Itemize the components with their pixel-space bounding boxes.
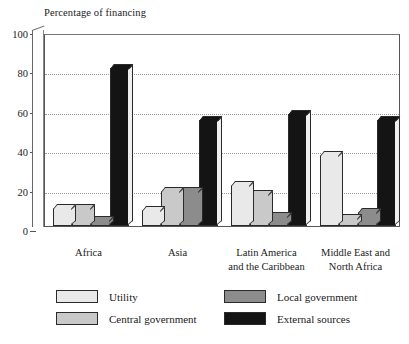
bar-side-face — [217, 116, 222, 225]
bar[interactable] — [110, 68, 129, 226]
bar-side-face — [338, 152, 343, 225]
plot-left-wall — [32, 30, 44, 227]
y-axis-tick-label: 20 — [18, 186, 29, 197]
legend-item[interactable]: Central government — [56, 312, 197, 325]
bar[interactable] — [231, 185, 250, 226]
bar-group — [223, 35, 312, 226]
bar[interactable] — [320, 155, 339, 226]
plot-floor — [32, 227, 400, 245]
gridline — [45, 153, 399, 154]
bar-side-face — [395, 116, 400, 225]
gridline — [45, 74, 399, 75]
legend-item[interactable]: Local government — [224, 290, 357, 303]
y-axis-tick-label: 40 — [18, 147, 29, 158]
y-axis-tick-label: 60 — [18, 107, 29, 118]
legend-label: Utility — [109, 291, 138, 303]
x-axis-label: Middle East and North Africa — [305, 246, 406, 274]
chart-legend: UtilityLocal governmentCentral governmen… — [0, 290, 409, 340]
bar-side-face — [249, 181, 254, 225]
y-axis: 020406080100 — [0, 30, 28, 245]
gridline — [45, 193, 399, 194]
y-axis-tick-label: 0 — [23, 226, 28, 237]
y-axis-tick-label: 80 — [18, 68, 29, 79]
legend-swatch — [224, 312, 266, 325]
legend-label: Local government — [277, 291, 357, 303]
legend-item[interactable]: Utility — [56, 290, 138, 303]
legend-swatch — [224, 290, 266, 303]
x-axis-labels: AfricaAsiaLatin America and the Caribbea… — [32, 246, 400, 282]
bar-chart: Percentage of financing 020406080100 Afr… — [0, 0, 409, 344]
bar-top-face — [231, 181, 254, 186]
chart-axis-title: Percentage of financing — [44, 7, 146, 18]
bar-side-face — [198, 187, 203, 225]
legend-item[interactable]: External sources — [224, 312, 350, 325]
bar-groups — [45, 35, 399, 226]
plot-area — [32, 30, 400, 245]
x-axis-label: Africa — [38, 246, 139, 260]
y-axis-tick-label: 100 — [12, 29, 28, 40]
x-axis-label: Latin America and the Caribbean — [216, 246, 317, 274]
bar-top-face — [377, 116, 400, 121]
legend-label: External sources — [277, 313, 350, 325]
x-axis-label: Asia — [127, 246, 228, 260]
bar[interactable] — [288, 114, 307, 226]
bar-group — [312, 35, 401, 226]
bar[interactable] — [142, 210, 161, 226]
bar-group — [134, 35, 223, 226]
legend-swatch — [56, 312, 98, 325]
plot-frame — [44, 34, 400, 227]
bar-side-face — [128, 65, 133, 225]
bar-top-face — [288, 110, 311, 115]
bar[interactable] — [53, 208, 72, 226]
legend-swatch — [56, 290, 98, 303]
bar-top-face — [161, 187, 184, 192]
bar-side-face — [179, 187, 184, 225]
gridline — [45, 114, 399, 115]
legend-label: Central government — [109, 313, 197, 325]
bar-top-face — [199, 116, 222, 121]
bar-group — [45, 35, 134, 226]
bar-side-face — [306, 111, 311, 225]
bar-side-face — [268, 191, 273, 225]
